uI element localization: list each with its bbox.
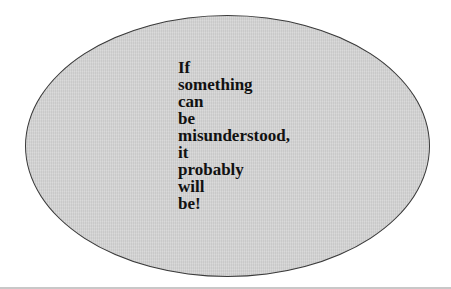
quote-line: can [178,93,290,110]
quote-text: If something can be misunderstood, it pr… [178,59,290,212]
quote-line: If [178,59,290,76]
quote-line: will [178,178,290,195]
quote-line: probably [178,161,290,178]
quote-line: misunderstood, [178,127,290,144]
quote-line: it [178,144,290,161]
quote-line: be [178,110,290,127]
quote-line: something [178,76,290,93]
quote-line: be! [178,195,290,212]
